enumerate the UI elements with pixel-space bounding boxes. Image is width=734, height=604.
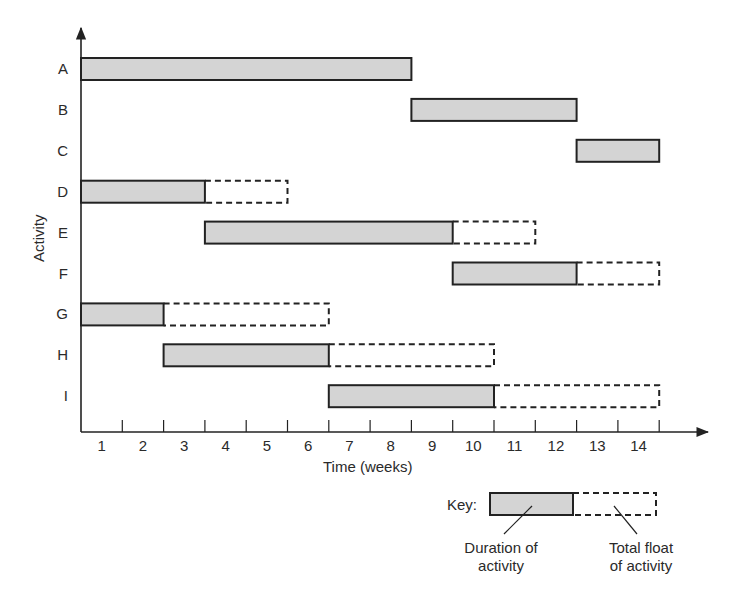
activity-bar-b — [411, 99, 576, 121]
legend-key — [490, 493, 656, 534]
activity-label-c: C — [48, 142, 68, 159]
activity-bar-f — [453, 263, 660, 285]
key-duration-line1: Duration of — [458, 539, 544, 557]
float-segment — [205, 181, 288, 203]
x-ticks — [122, 420, 659, 432]
float-segment — [164, 303, 329, 325]
duration-segment — [164, 344, 329, 366]
duration-segment — [81, 303, 164, 325]
float-segment — [329, 344, 494, 366]
x-tick-label: 9 — [417, 437, 447, 454]
activity-label-e: E — [48, 224, 68, 241]
x-axis-title: Time (weeks) — [323, 458, 412, 475]
activity-bars — [81, 58, 659, 407]
float-segment — [494, 385, 659, 407]
activity-label-b: B — [48, 101, 68, 118]
x-tick-label: 11 — [500, 437, 530, 454]
duration-segment — [411, 99, 576, 121]
duration-segment — [453, 263, 577, 285]
duration-segment — [329, 385, 494, 407]
activity-label-g: G — [48, 305, 68, 322]
x-tick-label: 7 — [334, 437, 364, 454]
float-segment — [453, 222, 536, 244]
activity-label-i: I — [48, 387, 68, 404]
x-tick-label: 10 — [458, 437, 488, 454]
key-float-swatch — [573, 493, 656, 515]
x-tick-label: 12 — [541, 437, 571, 454]
key-float-pointer — [614, 506, 637, 534]
x-tick-label: 2 — [128, 437, 158, 454]
key-float-label: Total float of activity — [598, 539, 684, 575]
x-tick-label: 1 — [87, 437, 117, 454]
duration-segment — [81, 58, 411, 80]
y-axis-title: Activity — [30, 214, 47, 262]
x-tick-label: 14 — [624, 437, 654, 454]
duration-segment — [81, 181, 205, 203]
activity-bar-g — [81, 303, 329, 325]
activity-label-f: F — [48, 265, 68, 282]
x-tick-label: 4 — [211, 437, 241, 454]
activity-bar-e — [205, 222, 535, 244]
activity-bar-h — [164, 344, 494, 366]
x-tick-label: 6 — [293, 437, 323, 454]
duration-segment — [577, 140, 660, 162]
key-title: Key: — [447, 496, 477, 513]
x-tick-label: 5 — [252, 437, 282, 454]
x-tick-label: 3 — [169, 437, 199, 454]
activity-label-h: H — [48, 346, 68, 363]
float-segment — [577, 263, 660, 285]
x-tick-label: 8 — [376, 437, 406, 454]
x-tick-label: 13 — [582, 437, 612, 454]
key-float-line1: Total float — [598, 539, 684, 557]
key-float-line2: of activity — [598, 557, 684, 575]
gantt-chart — [0, 0, 734, 604]
activity-bar-i — [329, 385, 659, 407]
activity-label-d: D — [48, 183, 68, 200]
activity-bar-c — [577, 140, 660, 162]
duration-segment — [205, 222, 453, 244]
key-duration-swatch — [490, 493, 573, 515]
activity-bar-a — [81, 58, 411, 80]
key-duration-label: Duration of activity — [458, 539, 544, 575]
activity-bar-d — [81, 181, 288, 203]
key-duration-line2: activity — [458, 557, 544, 575]
activity-label-a: A — [48, 60, 68, 77]
